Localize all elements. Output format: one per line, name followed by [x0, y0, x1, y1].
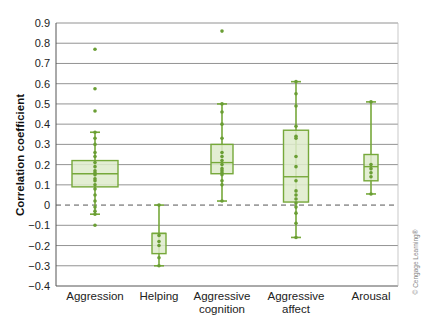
data-point — [294, 193, 298, 197]
x-category-label: Aggressive — [194, 290, 251, 302]
data-point — [93, 187, 97, 191]
y-tick-label: −0.1 — [28, 219, 50, 231]
y-tick-label: 0.4 — [35, 118, 50, 130]
data-point — [369, 175, 373, 179]
data-point — [157, 256, 161, 260]
data-point — [157, 203, 161, 207]
x-category-label: affect — [282, 303, 311, 315]
data-point — [294, 92, 298, 96]
data-point — [93, 199, 97, 203]
data-point — [93, 173, 97, 177]
data-point — [369, 100, 373, 104]
data-point — [294, 179, 298, 183]
y-tick-label: 0.1 — [35, 179, 50, 191]
data-point — [220, 151, 224, 155]
data-point — [294, 197, 298, 201]
data-point — [369, 163, 373, 167]
data-point — [294, 165, 298, 169]
data-point — [220, 137, 224, 141]
data-point — [294, 221, 298, 225]
data-point — [93, 183, 97, 187]
data-point — [220, 173, 224, 177]
data-point — [157, 264, 161, 268]
data-point — [369, 171, 373, 175]
data-point — [294, 211, 298, 215]
x-axis-categories: AggressionHelpingAggressivecognitionAggr… — [66, 290, 390, 315]
data-point — [294, 155, 298, 159]
data-point — [93, 161, 97, 165]
y-tick-label: −0.2 — [28, 240, 50, 252]
data-point — [369, 167, 373, 171]
box-arousal — [364, 100, 378, 196]
data-point — [93, 151, 97, 155]
data-point — [93, 155, 97, 159]
x-category-label: Helping — [140, 290, 179, 302]
box-helping — [152, 203, 166, 267]
x-category-label: Aggression — [66, 290, 124, 302]
y-axis-label: Correlation coefficient — [14, 94, 26, 216]
y-tick-label: 0 — [44, 199, 50, 211]
data-point — [220, 179, 224, 183]
data-point — [157, 240, 161, 244]
data-point — [220, 29, 224, 33]
data-point — [93, 137, 97, 141]
box-aggression — [72, 48, 118, 228]
data-point — [294, 189, 298, 193]
data-point — [93, 205, 97, 209]
data-point — [93, 165, 97, 169]
y-tick-label: 0.9 — [35, 17, 50, 29]
y-tick-label: −0.4 — [28, 280, 50, 292]
data-point — [93, 48, 97, 52]
data-point — [294, 80, 298, 84]
data-point — [93, 109, 97, 113]
data-point — [294, 236, 298, 240]
data-point — [157, 244, 161, 248]
y-tick-label: 0.8 — [35, 37, 50, 49]
x-category-label: Arousal — [352, 290, 391, 302]
data-point — [93, 87, 97, 91]
data-point — [93, 224, 97, 228]
data-point — [93, 193, 97, 197]
data-point — [294, 104, 298, 108]
data-point — [220, 122, 224, 126]
data-point — [220, 199, 224, 203]
data-point — [93, 143, 97, 147]
box-aggressive-cognition — [211, 29, 233, 203]
data-point — [220, 155, 224, 159]
data-point — [369, 192, 373, 196]
data-point — [220, 163, 224, 167]
x-category-label: Aggressive — [268, 290, 325, 302]
data-point — [220, 183, 224, 187]
copyright-credit: © Cengage Learning® — [412, 229, 420, 294]
data-point — [220, 110, 224, 114]
box-plot-chart: 0.90.80.70.60.50.40.30.20.10−0.1−0.2−0.3… — [0, 0, 426, 324]
y-tick-label: 0.6 — [35, 78, 50, 90]
box-series — [72, 29, 378, 267]
data-point — [93, 212, 97, 216]
x-category-label: cognition — [199, 303, 245, 315]
y-tick-label: −0.3 — [28, 260, 50, 272]
data-point — [93, 130, 97, 134]
y-axis-ticks: 0.90.80.70.60.50.40.30.20.10−0.1−0.2−0.3… — [28, 17, 50, 292]
data-point — [220, 159, 224, 163]
data-point — [93, 179, 97, 183]
y-tick-label: 0.7 — [35, 57, 50, 69]
data-point — [220, 102, 224, 106]
y-tick-label: 0.2 — [35, 159, 50, 171]
data-point — [294, 137, 298, 141]
data-point — [294, 205, 298, 209]
y-tick-label: 0.3 — [35, 138, 50, 150]
data-point — [157, 234, 161, 238]
y-tick-label: 0.5 — [35, 98, 50, 110]
data-point — [294, 124, 298, 128]
data-point — [294, 201, 298, 205]
